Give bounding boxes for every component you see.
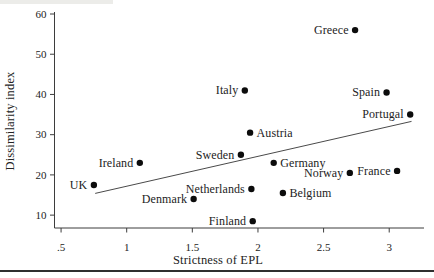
bottom-rule <box>0 270 434 272</box>
y-tick-label-20: 20 <box>36 169 48 181</box>
point-label-norway: Norway <box>304 166 343 180</box>
data-point-belgium <box>280 190 286 196</box>
y-tick-label-10: 10 <box>36 209 48 221</box>
point-label-greece: Greece <box>314 23 349 37</box>
data-point-greece <box>352 27 358 33</box>
data-point-norway <box>347 170 353 176</box>
y-axis-title: Dissimilarity index <box>3 71 17 171</box>
data-point-spain <box>383 89 389 95</box>
data-point-netherlands <box>248 186 254 192</box>
data-point-france <box>394 168 400 174</box>
x-tick-label-1.5: 1.5 <box>185 241 199 253</box>
point-label-belgium: Belgium <box>289 186 332 200</box>
point-label-uk: UK <box>70 178 88 192</box>
chart-svg: Dissimilarity index Strictness of EPL 10… <box>0 0 434 278</box>
x-tick-label-1: 1 <box>124 241 130 253</box>
data-point-ireland <box>137 160 143 166</box>
trend-line <box>95 121 411 193</box>
point-label-france: France <box>357 164 390 178</box>
data-point-austria <box>247 129 253 135</box>
point-label-spain: Spain <box>352 85 380 99</box>
x-axis-title: Strictness of EPL <box>173 253 263 267</box>
x-tick-label-.5: .5 <box>57 241 66 253</box>
y-tick-label-40: 40 <box>36 88 48 100</box>
point-label-austria: Austria <box>257 126 294 140</box>
chart-content: 102030405060.511.522.53UKIrelandDenmarkF… <box>36 8 425 253</box>
y-tick-label-60: 60 <box>36 8 48 20</box>
y-tick-label-50: 50 <box>36 48 48 60</box>
data-point-italy <box>242 87 248 93</box>
x-tick-label-2: 2 <box>255 241 261 253</box>
x-tick-label-3: 3 <box>386 241 392 253</box>
point-label-netherlands: Netherlands <box>186 182 245 196</box>
figure: Dissimilarity index Strictness of EPL 10… <box>0 0 434 278</box>
data-point-sweden <box>238 152 244 158</box>
point-label-ireland: Ireland <box>99 156 134 170</box>
point-label-italy: Italy <box>216 83 239 97</box>
data-point-germany <box>271 160 277 166</box>
y-tick-label-30: 30 <box>36 128 48 140</box>
data-point-denmark <box>190 196 196 202</box>
data-point-portugal <box>407 111 413 117</box>
point-label-denmark: Denmark <box>142 192 187 206</box>
point-label-sweden: Sweden <box>196 148 235 162</box>
point-label-portugal: Portugal <box>362 107 404 121</box>
x-tick-label-2.5: 2.5 <box>317 241 331 253</box>
point-label-finland: Finland <box>209 214 246 228</box>
data-point-uk <box>91 182 97 188</box>
data-point-finland <box>250 218 256 224</box>
